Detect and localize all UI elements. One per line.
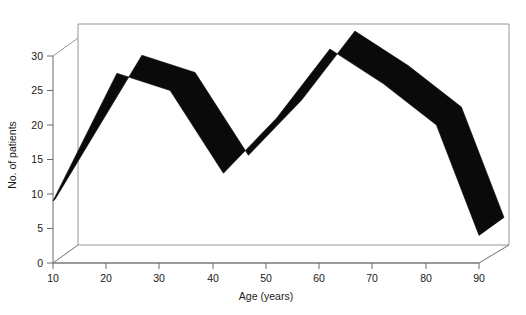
ribbon-chart-svg: 0 5 10 15 20 25 [0,0,526,315]
x-tick-label-30: 30 [153,272,165,284]
data-ribbon [53,31,504,235]
left-wall-top-diagonal [53,38,78,56]
floor-outline [53,245,509,263]
y-tick-label-30: 30 [31,50,43,62]
y-tick-label-20: 20 [31,119,43,131]
x-axis-title: Age (years) [239,290,293,302]
y-tick-5: 5 [37,222,53,234]
y-tick-0: 0 [37,257,53,269]
y-tick-label-5: 5 [37,222,43,234]
right-depth-diagonal [479,245,509,263]
ribbon-area [53,31,504,235]
y-tick-30: 30 [31,50,53,62]
x-tick-70: 70 [366,263,378,284]
origin-depth-diagonal [53,245,78,263]
x-tick-label-80: 80 [420,272,432,284]
x-tick-label-50: 50 [260,272,272,284]
x-tick-80: 80 [420,263,432,284]
y-axis-title: No. of patients [6,121,18,189]
y-tick-label-0: 0 [37,257,43,269]
x-tick-30: 30 [153,263,165,284]
x-tick-label-90: 90 [473,272,485,284]
y-tick-15: 15 [31,153,53,165]
chart-figure: 0 5 10 15 20 25 [0,0,526,315]
x-tick-label-20: 20 [100,272,112,284]
y-tick-10: 10 [31,188,53,200]
x-tick-label-70: 70 [366,272,378,284]
x-tick-label-60: 60 [313,272,325,284]
x-tick-90: 90 [473,263,485,284]
y-axis: 0 5 10 15 20 25 [31,50,53,269]
y-tick-label-15: 15 [31,153,43,165]
y-tick-label-25: 25 [31,84,43,96]
x-axis: 10 20 30 40 50 60 [47,263,485,284]
x-tick-label-10: 10 [47,272,59,284]
y-tick-label-10: 10 [31,188,43,200]
x-tick-label-40: 40 [207,272,219,284]
x-tick-10: 10 [47,263,59,284]
x-tick-20: 20 [100,263,112,284]
y-tick-25: 25 [31,84,53,96]
x-tick-60: 60 [313,263,325,284]
x-tick-50: 50 [260,263,272,284]
x-tick-40: 40 [207,263,219,284]
chart-3d-frame [53,24,509,263]
y-tick-20: 20 [31,119,53,131]
